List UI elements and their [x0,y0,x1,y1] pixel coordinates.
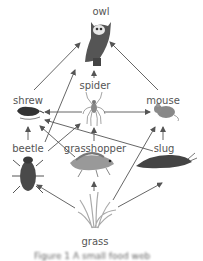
arrow-grass-to-beetle [37,185,75,208]
slug-icon [136,153,197,168]
grass-icon [78,192,116,228]
node-label-owl: owl [92,6,109,17]
beetle-icon [12,157,44,194]
arrow-shrew-to-owl [34,43,80,90]
node-label-beetle: beetle [12,143,44,154]
arrow-grass-to-slug [118,183,162,207]
node-label-slug: slug [154,143,175,154]
spider-icon [83,92,105,126]
arrow-mouse-to-owl [110,42,158,90]
figure-caption: Figure 1 A small food web [34,251,150,261]
arrows [28,42,163,208]
node-label-mouse: mouse [146,95,180,106]
shrew-icon [17,107,44,119]
node-label-grass: grass [81,236,108,247]
node-label-spider: spider [80,80,111,91]
arrow-beetle-to-owl [45,70,75,142]
node-label-grasshopper: grasshopper [64,143,126,154]
node-label-shrew: shrew [13,95,43,106]
grasshopper-icon [70,153,114,177]
owl-icon [85,22,111,66]
